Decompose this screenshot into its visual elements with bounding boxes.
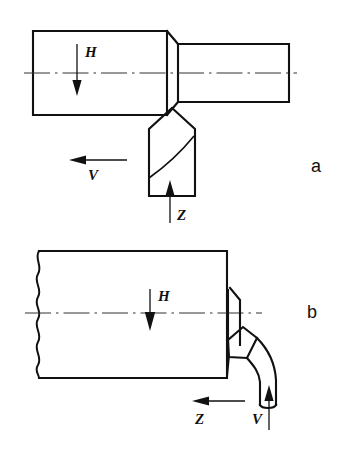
force-Z-label-b: Z <box>194 411 204 427</box>
cutting-tool-helix-edge-a <box>149 136 194 178</box>
panel-b-group: H Z V b <box>25 251 317 430</box>
force-Z-arrow-head-a <box>165 180 174 196</box>
force-H-arrow-head-a <box>72 80 81 96</box>
velocity-V-arrow-head-b <box>264 385 273 401</box>
panel-label-b: b <box>307 302 317 322</box>
tool-insert-b <box>228 327 257 358</box>
tool-shank-lower-inner-b <box>247 358 260 405</box>
force-H-label-b: H <box>157 288 171 304</box>
velocity-V-label-b: V <box>252 411 264 427</box>
velocity-V-arrow-head-a <box>69 155 86 164</box>
technical-drawing-canvas: H V Z a <box>0 0 353 454</box>
tool-shank-lower-tip-b <box>260 405 276 408</box>
workpiece-break-line-b <box>36 251 39 378</box>
figure-page: H V Z a <box>0 0 353 454</box>
workpiece-body-b <box>39 251 227 378</box>
force-Z-label-a: Z <box>176 207 186 223</box>
panel-label-a: a <box>311 156 322 176</box>
panel-a-group: H V Z a <box>24 31 322 223</box>
force-H-label-a: H <box>84 44 98 60</box>
velocity-V-label-a: V <box>88 167 100 183</box>
cutting-tool-body-a <box>149 108 195 196</box>
force-H-arrow-head-b <box>145 312 155 331</box>
force-Z-arrow-head-b <box>192 396 209 405</box>
